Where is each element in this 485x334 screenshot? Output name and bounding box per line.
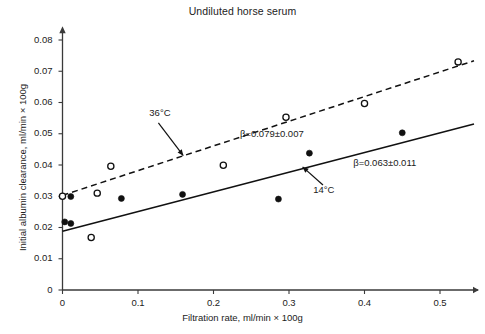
data-point-open xyxy=(88,234,94,240)
y-tick-label: 0 xyxy=(19,284,53,295)
regression-line-14C xyxy=(63,124,474,231)
y-tick-label: 0.02 xyxy=(19,221,53,232)
data-point-filled xyxy=(118,195,124,201)
data-point-filled xyxy=(62,219,68,225)
data-point-filled xyxy=(68,220,74,226)
data-point-open xyxy=(283,114,289,120)
arrow-36c-shaft xyxy=(158,123,183,156)
data-point-filled xyxy=(275,196,281,202)
data-point-filled xyxy=(180,191,186,197)
data-point-filled xyxy=(306,150,312,156)
x-tick-label: 0.2 xyxy=(199,297,229,308)
y-tick-label: 0.08 xyxy=(19,34,53,45)
data-point-open xyxy=(94,190,100,196)
label-36c: 36°C xyxy=(149,107,170,118)
data-point-open xyxy=(361,100,367,106)
x-tick-label: 0.3 xyxy=(274,297,304,308)
x-tick-label: 0.1 xyxy=(123,297,153,308)
y-axis-arrowhead xyxy=(59,26,65,33)
data-point-open xyxy=(455,59,461,65)
label-beta-14c: β=0.063±0.011 xyxy=(353,157,416,168)
x-tick-label: 0.4 xyxy=(350,297,380,308)
y-tick-label: 0.05 xyxy=(19,127,53,138)
data-point-open xyxy=(220,162,226,168)
data-point-open xyxy=(59,193,65,199)
y-tick-label: 0.06 xyxy=(19,96,53,107)
label-beta-36c: β=0.079±0.007 xyxy=(240,128,304,139)
y-tick-label: 0.07 xyxy=(19,65,53,76)
y-tick-label: 0.01 xyxy=(19,252,53,263)
label-14c: 14°C xyxy=(313,184,334,195)
figure-container: Undiluted horse serum Initial albumin cl… xyxy=(0,0,485,334)
data-point-filled xyxy=(399,130,405,136)
x-tick-label: 0.5 xyxy=(425,297,455,308)
arrow-36c-head xyxy=(178,149,184,155)
data-point-filled xyxy=(68,194,74,200)
data-point-open xyxy=(108,163,114,169)
y-tick-label: 0.03 xyxy=(19,190,53,201)
x-tick-label: 0 xyxy=(48,297,78,308)
y-tick-label: 0.04 xyxy=(19,159,53,170)
x-axis-arrowhead xyxy=(473,287,479,293)
